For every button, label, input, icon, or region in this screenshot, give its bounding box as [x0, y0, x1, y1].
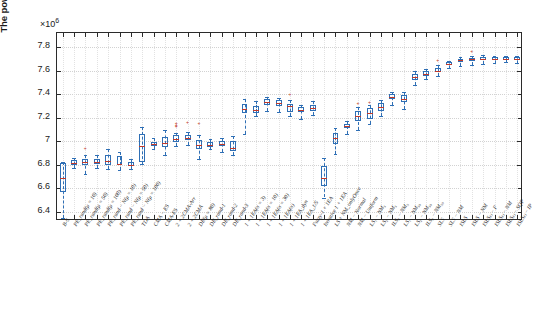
box-whisker-cap — [322, 158, 326, 159]
box-outlier: + — [368, 100, 371, 105]
x-gridline — [267, 33, 268, 219]
x-tick-mark — [154, 33, 155, 37]
x-gridline — [381, 33, 382, 219]
box-whisker-cap — [402, 109, 406, 110]
box-median — [230, 148, 236, 149]
box-whisker-cap — [95, 168, 99, 169]
x-gridline — [165, 33, 166, 219]
box-whisker-cap — [299, 119, 303, 120]
x-tick-mark — [74, 33, 75, 37]
box-median — [423, 74, 429, 75]
x-tick-mark — [313, 33, 314, 37]
box-whisker-cap — [322, 198, 326, 199]
x-tick-mark — [506, 33, 507, 37]
x-tick-mark — [256, 33, 257, 37]
x-gridline — [392, 33, 393, 219]
box-median — [162, 143, 168, 144]
y-tick-mark — [57, 118, 61, 119]
box-whisker-cap — [106, 169, 110, 170]
box-median — [117, 164, 123, 165]
box-outlier: + — [186, 120, 189, 125]
y-gridline — [57, 47, 521, 48]
box-median — [378, 107, 384, 108]
box-whisker-cap — [288, 100, 292, 101]
box-whisker-cap — [424, 79, 428, 80]
x-tick-mark — [108, 33, 109, 37]
box-whisker-cap — [447, 68, 451, 69]
y-tick-label: 7 — [14, 134, 50, 144]
box-median — [355, 116, 361, 117]
box-median — [401, 99, 407, 100]
box-whisker-cap — [129, 159, 133, 160]
x-tick-mark — [415, 33, 416, 37]
x-tick-mark — [85, 33, 86, 37]
box-whisker-cap — [231, 136, 235, 137]
box-iqr — [139, 134, 145, 162]
box-whisker-cap — [311, 101, 315, 102]
box-whisker-cap — [277, 98, 281, 99]
box-median — [139, 146, 145, 147]
box-median — [458, 60, 464, 61]
box-median — [469, 59, 475, 60]
box-outlier: + — [436, 58, 439, 63]
y-gridline — [57, 165, 521, 166]
y-tick-mark — [57, 47, 61, 48]
box-whisker-cap — [220, 138, 224, 139]
y-tick-mark — [57, 94, 61, 95]
y-tick-label: 6.4 — [14, 205, 50, 215]
box-median — [264, 102, 270, 103]
box-whisker-cap — [379, 100, 383, 101]
y-tick-mark — [57, 212, 61, 213]
y-tick-mark — [57, 71, 61, 72]
y-tick-label: 7.4 — [14, 87, 50, 97]
box-whisker-cap — [265, 111, 269, 112]
box-whisker-cap — [220, 152, 224, 153]
x-gridline — [279, 33, 280, 219]
x-tick-mark — [347, 33, 348, 37]
x-gridline — [210, 33, 211, 219]
box-whisker-cap — [334, 154, 338, 155]
box-whisker-cap — [152, 149, 156, 150]
x-tick-mark — [426, 33, 427, 37]
box-median — [344, 126, 350, 127]
y-gridline — [57, 141, 521, 142]
box-whisker-cap — [95, 155, 99, 156]
box-median — [389, 97, 395, 98]
box-whisker-cap — [436, 76, 440, 77]
box-whisker-cap — [243, 134, 247, 135]
x-gridline — [313, 33, 314, 219]
box-whisker-cap — [140, 164, 144, 165]
box-whisker-cap — [299, 105, 303, 106]
box-whisker-cap — [106, 149, 110, 150]
box-outlier: + — [288, 92, 291, 97]
x-tick-mark — [233, 33, 234, 37]
box-median — [321, 178, 327, 179]
box-median — [94, 162, 100, 163]
x-tick-mark — [335, 33, 336, 37]
x-gridline — [415, 33, 416, 219]
x-tick-mark — [404, 33, 405, 37]
y-tick-label: 7.2 — [14, 111, 50, 121]
box-median — [367, 113, 373, 114]
box-whisker-cap — [356, 130, 360, 131]
x-tick-mark — [188, 33, 189, 37]
box-outlier: + — [470, 49, 473, 54]
x-gridline — [199, 33, 200, 219]
box-whisker-cap — [379, 116, 383, 117]
x-gridline — [335, 33, 336, 219]
box-whisker-cap — [163, 155, 167, 156]
box-median — [412, 77, 418, 78]
box-whisker-cap — [436, 65, 440, 66]
box-whisker-cap — [209, 149, 213, 150]
box-whisker-cap — [390, 105, 394, 106]
x-gridline — [404, 33, 405, 219]
box-iqr — [230, 141, 236, 151]
box-whisker-cap — [424, 69, 428, 70]
x-tick-mark — [97, 33, 98, 37]
box-whisker-cap — [84, 155, 88, 156]
box-outlier: + — [175, 121, 178, 126]
x-tick-mark — [245, 33, 246, 37]
x-gridline — [233, 33, 234, 219]
box-median — [105, 161, 111, 162]
box-median — [287, 106, 293, 107]
